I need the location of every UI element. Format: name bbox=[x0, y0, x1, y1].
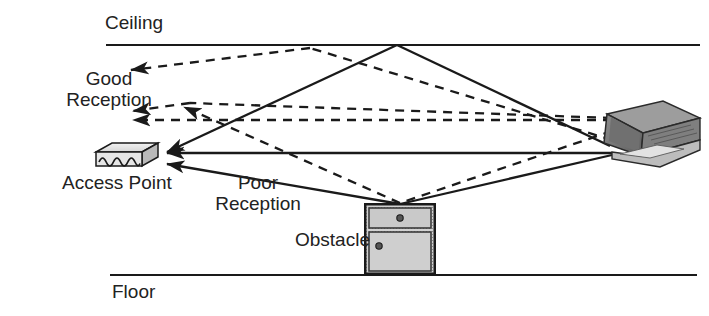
wireless-reflection-svg bbox=[0, 0, 709, 316]
obstacle-cabinet bbox=[364, 203, 436, 275]
obstacle-label: Obstacle bbox=[295, 229, 370, 250]
laptop-device bbox=[604, 101, 700, 167]
access-point-device bbox=[96, 143, 158, 166]
good-reception-label: Good Reception bbox=[57, 68, 161, 111]
ray-dashed-ceiling-down bbox=[131, 48, 310, 70]
ray-solid-up-ceiling bbox=[397, 45, 610, 146]
ceiling-label: Ceiling bbox=[105, 12, 163, 33]
access-point-label: Access Point bbox=[62, 172, 172, 193]
floor-label: Floor bbox=[112, 281, 155, 302]
ray-dashed-to-obstacle bbox=[400, 131, 612, 203]
poor-reception-label: Poor Reception bbox=[196, 172, 320, 215]
ray-solid-ceiling-down bbox=[167, 45, 397, 152]
diagram-canvas: Ceiling Floor Good Reception Poor Recept… bbox=[0, 0, 709, 316]
ray-solid-to-obstacle bbox=[400, 155, 612, 204]
